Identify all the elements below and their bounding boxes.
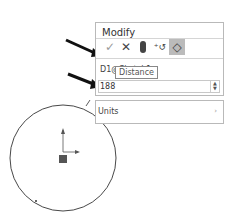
traffic-light-icon[interactable] (135, 39, 151, 55)
modify-dialog: Modify ✓ ✕ ⁺↺ ◇ D1@Sketch1 188 ▲▼ (95, 22, 224, 96)
mark-dimension-icon[interactable]: ◇ (169, 39, 185, 55)
checkmark-icon[interactable]: ✓ (102, 39, 118, 55)
units-label: Units (98, 107, 118, 116)
dimension-value-input[interactable]: 188 ▲▼ (98, 80, 220, 93)
tooltip: Distance (115, 66, 158, 79)
reverse-sense-icon[interactable]: ⁺↺ (152, 39, 168, 55)
dialog-title: Modify (102, 27, 135, 38)
units-panel[interactable]: Units › (95, 100, 224, 124)
dimension-leader (86, 100, 90, 106)
center-point-icon (59, 155, 67, 163)
value-spinner[interactable]: ▲▼ (210, 81, 219, 92)
chevron-right-icon[interactable]: › (214, 107, 217, 115)
x-icon[interactable]: ✕ (118, 39, 134, 55)
